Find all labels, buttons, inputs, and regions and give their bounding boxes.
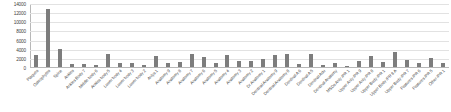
bar-chart: 02000400060008000100001200014000 Plaques… <box>0 0 451 112</box>
bar-slot <box>377 4 389 67</box>
y-tick-label: 6000 <box>16 38 26 43</box>
bar-slot <box>126 4 138 67</box>
bar <box>166 63 170 67</box>
x-label-slot: Other /PR 1 <box>437 69 449 112</box>
bar <box>333 63 337 68</box>
bar <box>178 62 182 67</box>
y-tick-label: 0 <box>24 66 26 71</box>
bar <box>58 49 62 67</box>
bar-slot <box>389 4 401 67</box>
bar <box>34 55 38 67</box>
bar-slot <box>198 4 210 67</box>
bar-slot <box>269 4 281 67</box>
y-tick-label: 14000 <box>14 2 26 7</box>
bar-slot <box>186 4 198 67</box>
bar-slot <box>437 4 449 67</box>
bar <box>142 65 146 67</box>
bar <box>369 56 373 67</box>
bar-slot <box>54 4 66 67</box>
bar-slot <box>30 4 42 67</box>
bar-slot <box>102 4 114 67</box>
bar-slot <box>90 4 102 67</box>
bar-slot <box>245 4 257 67</box>
bar <box>249 61 253 67</box>
bar-slot <box>210 4 222 67</box>
bar-slot <box>293 4 305 67</box>
bar <box>405 60 409 67</box>
bar <box>214 63 218 67</box>
bar <box>273 55 277 67</box>
bar <box>237 61 241 67</box>
bar-slot <box>329 4 341 67</box>
bar-slot <box>341 4 353 67</box>
bar <box>82 64 86 67</box>
bar-series <box>30 4 449 67</box>
bar-slot <box>281 4 293 67</box>
bar-slot <box>305 4 317 67</box>
bar <box>441 63 445 67</box>
y-axis-labels: 02000400060008000100001200014000 <box>0 4 28 68</box>
bar-slot <box>401 4 413 67</box>
x-tick-label: Spine <box>53 69 63 79</box>
bar <box>309 54 313 67</box>
bar-slot <box>222 4 234 67</box>
bar-slot <box>66 4 78 67</box>
x-axis-labels: PlaquesOsteophytesSpineAnklesAnkles Body… <box>30 69 449 112</box>
bar <box>130 63 134 67</box>
bar <box>345 66 349 67</box>
bar-slot <box>138 4 150 67</box>
y-tick-label: 4000 <box>16 47 26 52</box>
bar-slot <box>174 4 186 67</box>
bar-slot <box>413 4 425 67</box>
bar <box>202 57 206 67</box>
bar-slot <box>233 4 245 67</box>
bar <box>106 54 110 68</box>
bar <box>118 63 122 67</box>
bar-slot <box>317 4 329 67</box>
bar-slot <box>353 4 365 67</box>
bar <box>261 59 265 67</box>
bar-slot <box>257 4 269 67</box>
bar-slot <box>162 4 174 67</box>
bar <box>154 56 158 67</box>
y-tick-label: 8000 <box>16 29 26 34</box>
bar <box>321 65 325 67</box>
bar-slot <box>78 4 90 67</box>
bar <box>357 61 361 67</box>
bar-slot <box>42 4 54 67</box>
bar-slot <box>425 4 437 67</box>
bar <box>417 63 421 67</box>
bar <box>429 58 433 67</box>
bar <box>190 54 194 67</box>
bar-slot <box>365 4 377 67</box>
y-tick-label: 2000 <box>16 56 26 61</box>
bar <box>70 64 74 67</box>
bar-slot <box>150 4 162 67</box>
bar <box>381 62 385 67</box>
y-tick-label: 12000 <box>14 11 26 16</box>
y-tick-label: 10000 <box>14 20 26 25</box>
bar <box>225 55 229 67</box>
x-axis-line <box>30 67 449 68</box>
bar <box>393 52 397 67</box>
bar <box>285 54 289 68</box>
bar <box>297 64 301 67</box>
bar-slot <box>114 4 126 67</box>
bar <box>46 9 50 68</box>
bar <box>94 65 98 67</box>
plot-area <box>30 4 449 68</box>
